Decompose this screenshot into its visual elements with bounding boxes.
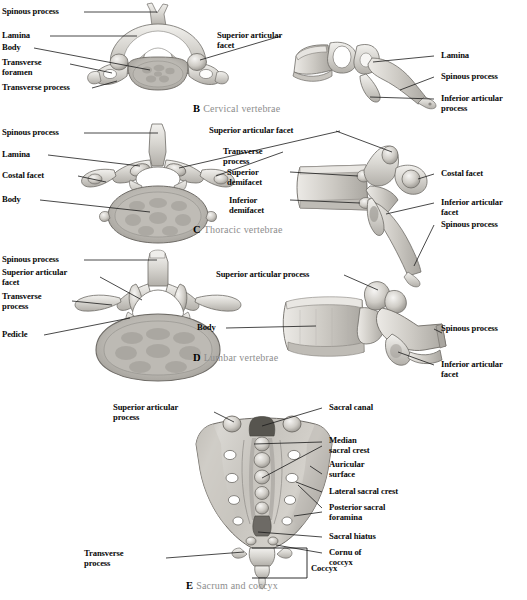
caption-text-lumbar: Lumbar vertebrae	[204, 352, 279, 363]
label-thoracic-inferior-demifacet: Inferior demifacet	[229, 196, 264, 215]
label-cervical-transverse-process: Transverse process	[2, 83, 70, 93]
anatomy-figure: Spinous process Lamina Body Transverse f…	[0, 0, 527, 600]
caption-cervical: BCervical vertebrae	[193, 103, 280, 114]
label-thoracic-costal-facet-right: Costal facet	[441, 169, 483, 179]
label-thoracic-lamina: Lamina	[2, 150, 30, 160]
label-cervical-lateral-lamina: Lamina	[441, 51, 469, 61]
label-thoracic-lateral-spinous-process: Spinous process	[441, 220, 498, 230]
label-lumbar-inferior-articular-facet: Inferior articular facet	[441, 360, 503, 379]
caption-letter-d: D	[193, 352, 201, 363]
cervical-lateral-art	[293, 42, 436, 109]
label-thoracic-transverse-process: Transverse process	[223, 147, 262, 166]
label-thoracic-costal-facet: Costal facet	[2, 171, 44, 181]
label-thoracic-spinous-process: Spinous process	[2, 128, 59, 138]
caption-lumbar: DLumbar vertebrae	[193, 352, 278, 363]
label-lumbar-body: Body	[197, 323, 216, 333]
label-lumbar-spinous-process: Spinous process	[2, 255, 59, 265]
caption-letter-e: E	[186, 580, 193, 591]
label-lumbar-pedicle: Pedicle	[2, 330, 28, 340]
caption-text-sacrum: Sacrum and coccyx	[196, 580, 278, 591]
label-thoracic-superior-articular-facet: Superior articular facet	[209, 126, 293, 136]
label-thoracic-body: Body	[2, 195, 21, 205]
lumbar-lateral-art	[283, 282, 446, 366]
cervical-superior-art	[88, 3, 229, 90]
caption-text-cervical: Cervical vertebrae	[203, 103, 280, 114]
label-lateral-sacral-crest: Lateral sacral crest	[329, 487, 398, 497]
label-coccyx: Coccyx	[311, 564, 337, 574]
label-sacral-canal: Sacral canal	[329, 403, 373, 413]
label-cervical-body: Body	[2, 43, 21, 53]
label-lumbar-superior-articular-process: Superior articular process	[216, 270, 309, 280]
caption-letter-b: B	[193, 103, 200, 114]
label-auricular-surface: Auricular surface	[329, 460, 364, 479]
caption-letter-c: C	[193, 224, 201, 235]
caption-sacrum: ESacrum and coccyx	[186, 580, 278, 591]
label-cervical-lamina: Lamina	[2, 31, 30, 41]
label-lumbar-lateral-spinous-process: Spinous process	[441, 324, 498, 334]
label-cervical-lateral-spinous-process: Spinous process	[441, 72, 498, 82]
label-thoracic-superior-demifacet: Superior demifacet	[227, 168, 262, 187]
thoracic-lateral-art	[297, 146, 427, 287]
label-sacral-hiatus: Sacral hiatus	[329, 532, 376, 542]
label-median-sacral-crest: Median sacral crest	[329, 436, 369, 455]
caption-text-thoracic: Thoracic vertebrae	[204, 224, 283, 235]
label-cervical-inferior-articular-process: Inferior articular process	[441, 94, 503, 113]
label-posterior-sacral-foramina: Posterior sacral foramina	[329, 503, 385, 522]
label-lumbar-superior-articular-facet: Superior articular facet	[2, 268, 67, 287]
caption-thoracic: CThoracic vertebrae	[193, 224, 283, 235]
label-sacrum-transverse-process: Transverse process	[84, 549, 123, 568]
label-lumbar-transverse-process: Transverse process	[2, 292, 41, 311]
label-cervical-superior-articular-facet: Superior articular facet	[217, 31, 282, 50]
label-sacrum-superior-articular-process: Superior articular process	[113, 403, 178, 422]
label-cervical-spinous-process: Spinous process	[2, 7, 59, 17]
label-thoracic-inferior-articular-facet: Inferior articular facet	[441, 198, 503, 217]
artwork-layer	[0, 0, 527, 600]
label-cervical-transverse-foramen: Transverse foramen	[2, 58, 41, 77]
